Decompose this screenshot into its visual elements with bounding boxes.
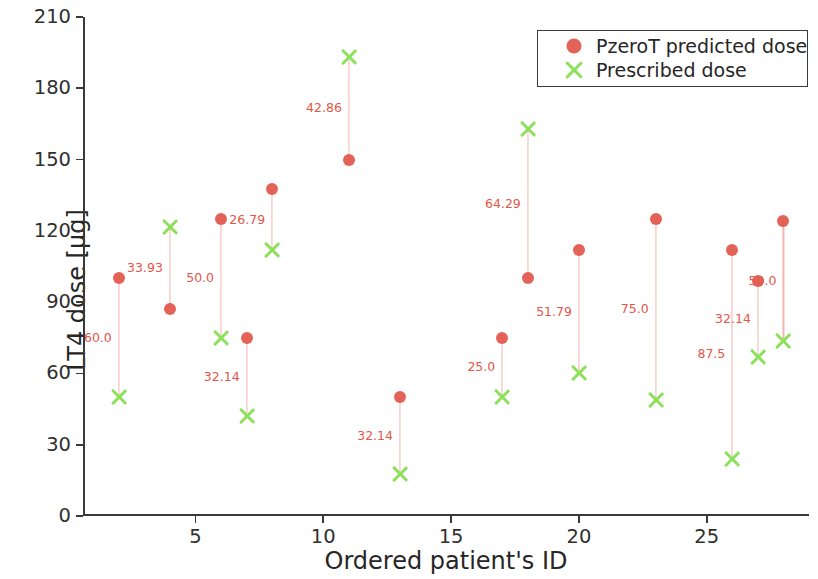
prescribed-dose-marker[interactable]	[390, 464, 410, 484]
prescribed-dose-marker[interactable]	[748, 347, 768, 367]
predicted-dose-marker[interactable]	[215, 213, 227, 225]
x-cross-marker-icon	[552, 58, 596, 82]
prescribed-dose-marker[interactable]	[722, 449, 742, 469]
difference-annotation: 42.86	[306, 102, 346, 115]
plot-area: 0306090120150180210 510152025 60.033.935…	[83, 17, 809, 516]
predicted-dose-marker[interactable]	[394, 391, 406, 403]
difference-annotation: 32.14	[357, 430, 397, 443]
legend-label-predicted: PzeroT predicted dose	[596, 37, 807, 56]
prescribed-dose-marker[interactable]	[211, 328, 231, 348]
predicted-dose-marker[interactable]	[113, 272, 125, 284]
filled-circle-marker-icon	[552, 34, 596, 58]
legend-item-predicted: PzeroT predicted dose	[552, 34, 807, 58]
x-axis-title: Ordered patient's ID	[83, 547, 809, 575]
prescribed-dose-marker[interactable]	[109, 387, 129, 407]
prescribed-dose-marker[interactable]	[773, 331, 793, 351]
connector-line	[578, 250, 579, 374]
connector-line	[348, 57, 349, 159]
connector-line	[220, 219, 221, 338]
y-tick-label: 0	[59, 506, 71, 526]
y-tick-label: 180	[34, 79, 71, 99]
predicted-dose-marker[interactable]	[266, 183, 278, 195]
prescribed-dose-marker[interactable]	[237, 406, 257, 426]
y-tick-mark	[76, 159, 83, 161]
difference-annotation: 50.0	[186, 272, 218, 285]
legend-item-prescribed: Prescribed dose	[552, 58, 747, 82]
y-tick-label: 210	[34, 7, 71, 27]
prescribed-dose-marker[interactable]	[262, 240, 282, 260]
predicted-dose-marker[interactable]	[522, 272, 534, 284]
prescribed-dose-marker[interactable]	[160, 217, 180, 237]
y-tick-mark	[76, 444, 83, 446]
y-tick-label: 150	[34, 150, 71, 170]
prescribed-dose-marker[interactable]	[518, 119, 538, 139]
y-tick-mark	[76, 515, 83, 517]
connector-line	[655, 219, 656, 400]
difference-annotation: 50.0	[749, 275, 781, 288]
difference-annotation: 33.93	[127, 262, 167, 275]
x-tick-mark	[450, 516, 452, 523]
x-axis-spine	[83, 514, 809, 516]
predicted-dose-marker[interactable]	[726, 244, 738, 256]
chart-legend: PzeroT predicted dose Prescribed dose	[537, 30, 808, 87]
predicted-dose-marker[interactable]	[164, 303, 176, 315]
chart-figure: LT4 dose [μg] 0306090120150180210 510152…	[0, 0, 818, 579]
difference-annotation: 51.79	[536, 305, 576, 318]
y-tick-label: 90	[46, 292, 71, 312]
prescribed-dose-marker[interactable]	[646, 390, 666, 410]
prescribed-dose-marker[interactable]	[339, 47, 359, 67]
x-axis-title-container: Ordered patient's ID	[83, 539, 809, 579]
difference-annotation: 64.29	[485, 197, 525, 210]
y-tick-mark	[76, 373, 83, 375]
difference-annotation: 32.14	[204, 371, 244, 384]
y-tick-label: 30	[46, 435, 71, 455]
connector-line	[757, 281, 758, 357]
connector-line	[399, 397, 400, 474]
x-tick-mark	[322, 516, 324, 523]
difference-annotation: 87.5	[697, 348, 729, 361]
predicted-dose-marker[interactable]	[496, 332, 508, 344]
connector-line	[527, 129, 528, 279]
connector-line	[783, 221, 784, 341]
predicted-dose-marker[interactable]	[777, 215, 789, 227]
y-tick-mark	[76, 301, 83, 303]
connector-line	[246, 338, 247, 416]
predicted-dose-marker[interactable]	[573, 244, 585, 256]
y-tick-label: 60	[46, 364, 71, 384]
y-tick-mark	[76, 16, 83, 18]
y-axis-spine	[83, 17, 85, 516]
difference-annotation: 60.0	[84, 332, 116, 345]
predicted-dose-marker[interactable]	[241, 332, 253, 344]
x-tick-mark	[578, 516, 580, 523]
connector-line	[732, 250, 733, 459]
y-tick-mark	[76, 87, 83, 89]
legend-label-prescribed: Prescribed dose	[596, 61, 747, 80]
difference-annotation: 26.79	[229, 213, 269, 226]
difference-annotation: 25.0	[467, 361, 499, 374]
x-tick-mark	[195, 516, 197, 523]
predicted-dose-marker[interactable]	[343, 154, 355, 166]
connector-line	[118, 278, 119, 397]
y-tick-mark	[76, 230, 83, 232]
y-tick-label: 120	[34, 221, 71, 241]
prescribed-dose-marker[interactable]	[492, 387, 512, 407]
connector-line	[169, 227, 170, 309]
difference-annotation: 32.14	[715, 313, 755, 326]
predicted-dose-marker[interactable]	[650, 213, 662, 225]
difference-annotation: 75.0	[621, 303, 653, 316]
x-tick-mark	[706, 516, 708, 523]
prescribed-dose-marker[interactable]	[569, 363, 589, 383]
